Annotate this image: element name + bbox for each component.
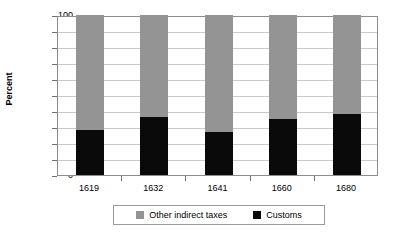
black-swatch-icon <box>253 211 261 219</box>
bar-group <box>76 15 104 175</box>
bar-segment-customs <box>269 119 297 175</box>
x-axis-tick-label: 1619 <box>59 183 119 193</box>
legend-item-label: Customs <box>266 210 302 220</box>
plot-area <box>57 16 378 176</box>
bar-group <box>333 15 361 175</box>
x-axis-tick-label: 1641 <box>188 183 248 193</box>
bar-segment-other-indirect-taxes <box>269 15 297 119</box>
x-axis-tick-mark <box>314 176 315 181</box>
bar-segment-customs <box>205 132 233 175</box>
x-axis-tick-label: 1660 <box>252 183 312 193</box>
bar-segment-other-indirect-taxes <box>205 15 233 132</box>
y-axis-title: Percent <box>4 59 14 119</box>
x-axis-tick-mark <box>121 176 122 181</box>
legend-item: Customs <box>253 210 302 220</box>
bar-segment-customs <box>76 130 104 175</box>
x-axis-tick-label: 1680 <box>316 183 376 193</box>
bar-group <box>140 15 168 175</box>
stacked-bar-chart: Percent 1009080706050403020100 161916321… <box>0 0 398 239</box>
legend: Other indirect taxesCustoms <box>113 205 325 225</box>
bar-segment-other-indirect-taxes <box>76 15 104 130</box>
x-axis-tick-mark <box>250 176 251 181</box>
gray-swatch-icon <box>136 211 144 219</box>
bar-segment-customs <box>333 114 361 175</box>
bar-segment-other-indirect-taxes <box>140 15 168 117</box>
y-axis-tick-mark <box>52 176 57 177</box>
bar-group <box>205 15 233 175</box>
bar-group <box>269 15 297 175</box>
bar-segment-other-indirect-taxes <box>333 15 361 114</box>
x-axis-tick-label: 1632 <box>123 183 183 193</box>
legend-item-label: Other indirect taxes <box>149 210 227 220</box>
x-axis-tick-mark <box>185 176 186 181</box>
bar-segment-customs <box>140 117 168 175</box>
legend-item: Other indirect taxes <box>136 210 227 220</box>
